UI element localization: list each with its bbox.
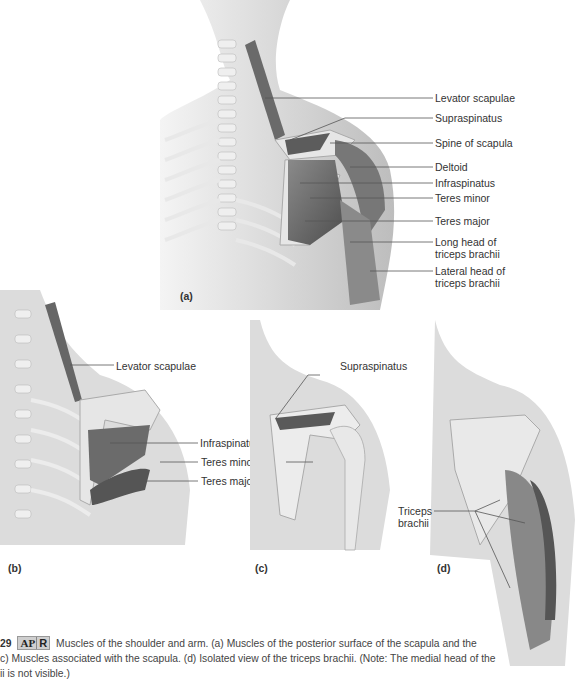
figure-number: 29 xyxy=(0,638,11,649)
panel-b-id: (b) xyxy=(8,562,21,574)
caption-line-3: ii is not visible.) xyxy=(0,666,581,681)
label-b-teres-minor: Teres minor xyxy=(201,456,256,468)
panel-b-leader-lines xyxy=(0,290,200,490)
apr-badge-r: R xyxy=(36,637,47,649)
label-a-lateral-head-line1: Lateral head of xyxy=(435,265,505,277)
label-a-spine-of-scapula: Spine of scapula xyxy=(435,137,513,149)
label-a-long-head-line2: triceps brachii xyxy=(435,248,500,260)
label-b-levator-scapulae: Levator scapulae xyxy=(116,360,196,372)
label-a-supraspinatus: Supraspinatus xyxy=(435,112,502,124)
panel-d-leader-lines xyxy=(430,480,581,600)
panel-c-id: (c) xyxy=(255,562,268,574)
apr-badge-ap: AP xyxy=(20,637,35,649)
panel-d-id: (d) xyxy=(437,562,450,574)
label-a-teres-major: Teres major xyxy=(435,215,490,227)
figure-caption: 29APRMuscles of the shoulder and arm. (a… xyxy=(0,636,581,681)
label-a-teres-minor: Teres minor xyxy=(435,192,490,204)
label-a-long-head-line1: Long head of xyxy=(435,236,496,248)
panel-a-leader-lines xyxy=(0,0,581,310)
label-a-levator-scapulae: Levator scapulae xyxy=(435,92,515,104)
label-c-supraspinatus: Supraspinatus xyxy=(340,360,407,372)
panel-c-leader-lines xyxy=(250,360,390,480)
label-a-lateral-head-line2: triceps brachii xyxy=(435,277,500,289)
label-d-triceps-line1: Triceps xyxy=(398,505,432,517)
label-b-teres-major: Teres major xyxy=(201,475,256,487)
label-a-infraspinatus: Infraspinatus xyxy=(435,177,495,189)
caption-text-1: Muscles of the shoulder and arm. (a) Mus… xyxy=(56,638,477,649)
caption-line-1: 29APRMuscles of the shoulder and arm. (a… xyxy=(0,636,581,651)
label-a-deltoid: Deltoid xyxy=(435,161,468,173)
caption-line-2: c) Muscles associated with the scapula. … xyxy=(0,651,581,666)
apr-badge[interactable]: APR xyxy=(17,636,50,650)
label-d-triceps-line2: brachii xyxy=(398,517,429,529)
